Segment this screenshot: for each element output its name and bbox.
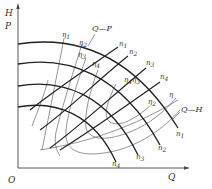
eta3-right-label: η3 (132, 76, 140, 85)
qh-label: Q—H (181, 105, 204, 114)
eta4-right-label: η4 (124, 76, 132, 85)
y-axis-arrow-icon (16, 3, 19, 9)
qh-curve-n3 (18, 84, 138, 155)
x-axis-arrow-icon (184, 166, 190, 169)
qp-n2-label: n2 (129, 48, 138, 57)
origin-label: O (8, 175, 16, 185)
qh-n3-label: n3 (136, 153, 145, 162)
eta2-right-label: η2 (148, 98, 156, 107)
qp-n4-label: n4 (160, 73, 169, 82)
qh-n1-label: n1 (176, 130, 184, 139)
eta1-label: η1 (62, 31, 70, 40)
qp-label: Q—P (92, 24, 113, 33)
qh-n4-label: n4 (112, 160, 121, 169)
qh-leader (172, 112, 180, 120)
pump-characteristic-diagram: H P O Q Q—P Q—H n1 n2 n3 (0, 0, 212, 189)
efficiency-curve-eta (40, 100, 178, 150)
eta-label: η (169, 91, 174, 99)
eta2-label: η2 (79, 39, 87, 48)
eta3-label: η3 (78, 51, 86, 60)
qp-leader (88, 34, 95, 46)
y-axis-label-h: H (4, 8, 13, 18)
x-axis-label-q: Q (168, 172, 176, 182)
qp-n1-label: n1 (119, 40, 127, 49)
eta4-label: η4 (92, 60, 100, 69)
y-axis-label-p: P (4, 21, 12, 31)
qp-curve-n4 (60, 82, 160, 150)
efficiency-curve-1 (42, 38, 64, 150)
qp-n3-label: n3 (146, 59, 155, 68)
qh-curve-n1 (18, 42, 178, 128)
qh-n2-label: n2 (158, 144, 167, 153)
